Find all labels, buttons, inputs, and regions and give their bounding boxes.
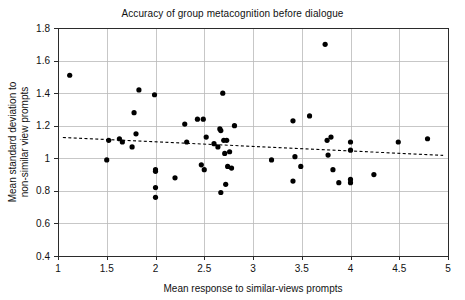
data-point: [218, 190, 223, 195]
data-point: [106, 138, 111, 143]
data-point: [172, 175, 177, 180]
y-tick-label: 1: [44, 153, 50, 164]
x-tick-label: 5: [445, 263, 451, 274]
data-point: [328, 135, 333, 140]
data-point: [330, 167, 335, 172]
tick-marks-group: [54, 29, 449, 261]
x-tick-label: 4: [348, 263, 354, 274]
gridlines-group: [58, 28, 448, 256]
y-axis-title-group: Mean standard deviation tonon-similar vi…: [7, 81, 30, 202]
data-point: [133, 131, 138, 136]
data-point: [290, 118, 295, 123]
data-point: [220, 91, 225, 96]
data-point: [104, 157, 109, 162]
data-point: [195, 117, 200, 122]
y-tick-label: 0.8: [36, 185, 50, 196]
x-tick-label: 1.5: [100, 263, 114, 274]
data-point: [153, 195, 158, 200]
data-point: [130, 144, 135, 149]
data-point: [184, 139, 189, 144]
y-tick-label: 1.6: [36, 55, 50, 66]
data-point: [182, 121, 187, 126]
y-tick-label: 0.6: [36, 218, 50, 229]
data-point: [292, 154, 297, 159]
data-point: [227, 149, 232, 154]
data-points-group: [67, 42, 430, 200]
data-point: [202, 167, 207, 172]
y-axis-label-line1: Mean standard deviation to: [7, 81, 18, 202]
data-point: [199, 162, 204, 167]
data-point: [371, 172, 376, 177]
plot-canvas: 11.522.533.544.55 0.40.60.811.21.41.61.8…: [0, 0, 465, 300]
data-point: [153, 169, 158, 174]
x-tick-label: 2: [153, 263, 159, 274]
data-point: [336, 180, 341, 185]
x-axis-title-group: Mean response to similar-views prompts: [164, 283, 343, 294]
data-point: [152, 92, 157, 97]
y-tick-label: 1.2: [36, 120, 50, 131]
data-point: [290, 178, 295, 183]
y-tick-label: 1.8: [36, 23, 50, 34]
x-tick-label: 2.5: [197, 263, 211, 274]
data-point: [131, 110, 136, 115]
data-point: [223, 182, 228, 187]
data-point: [215, 144, 220, 149]
data-point: [153, 185, 158, 190]
data-point: [136, 87, 141, 92]
x-tick-label: 4.5: [392, 263, 406, 274]
data-point: [348, 180, 353, 185]
y-tick-label: 1.4: [36, 88, 50, 99]
data-point: [348, 148, 353, 153]
data-point: [222, 151, 227, 156]
x-tick-label: 1: [55, 263, 61, 274]
data-point: [120, 139, 125, 144]
x-tick-label: 3: [250, 263, 256, 274]
x-axis-label: Mean response to similar-views prompts: [164, 283, 343, 294]
y-tick-label: 0.4: [36, 251, 50, 262]
data-point: [325, 152, 330, 157]
data-point: [232, 123, 237, 128]
data-point: [396, 139, 401, 144]
y-tick-labels-group: 0.40.60.811.21.41.61.8: [36, 23, 50, 262]
data-point: [323, 42, 328, 47]
data-point: [224, 138, 229, 143]
y-axis-label-line2: non-similar view prompts: [19, 87, 30, 198]
x-tick-labels-group: 11.522.533.544.55: [55, 263, 451, 274]
scatter-plot-figure: Accuracy of group metacognition before d…: [0, 0, 465, 300]
data-point: [269, 157, 274, 162]
data-point: [229, 165, 234, 170]
x-tick-label: 3.5: [295, 263, 309, 274]
data-point: [307, 113, 312, 118]
data-point: [201, 117, 206, 122]
data-point: [204, 135, 209, 140]
data-point: [348, 139, 353, 144]
data-point: [67, 73, 72, 78]
data-point: [298, 164, 303, 169]
data-point: [218, 128, 223, 133]
data-point: [425, 136, 430, 141]
